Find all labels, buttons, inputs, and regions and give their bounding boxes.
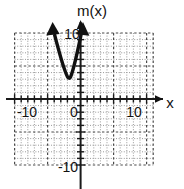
y-tick-label-negative-ten: -10 [58, 159, 78, 175]
x-tick-label-zero: 0 [70, 104, 78, 120]
parabola-left-arrow [46, 22, 59, 36]
coordinate-plane-svg: m(x) x -10 0 10 10 -10 [0, 0, 184, 189]
x-tick-label-ten: 10 [126, 104, 142, 120]
x-tick-label-negative-ten: -10 [17, 104, 37, 120]
x-axis-label: x [166, 94, 174, 111]
function-label: m(x) [77, 2, 107, 19]
x-axis-arrow [155, 95, 163, 103]
y-tick-label-ten: 10 [64, 26, 80, 42]
x-axis [6, 94, 163, 103]
graph-figure: m(x) x -10 0 10 10 -10 [0, 0, 184, 189]
